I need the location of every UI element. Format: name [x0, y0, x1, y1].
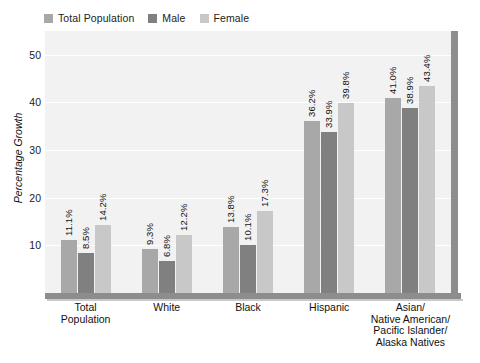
bar[interactable]: 39.8%	[338, 103, 354, 293]
bar[interactable]: 14.2%	[95, 225, 111, 293]
x-axis-category-line: Population	[33, 314, 138, 326]
legend-item-female: Female	[200, 12, 250, 24]
bar[interactable]: 33.9%	[321, 132, 337, 293]
bar[interactable]: 36.2%	[304, 121, 320, 293]
bar[interactable]: 12.2%	[176, 235, 192, 293]
legend-label-female: Female	[214, 12, 250, 24]
bar-value-label: 12.2%	[177, 203, 188, 230]
bar-value-label: 38.9%	[404, 76, 415, 103]
bar-group: 9.3%6.8%12.2%	[142, 31, 192, 293]
bar-value-label: 6.8%	[160, 235, 171, 257]
bar[interactable]: 8.5%	[78, 253, 94, 293]
chart-plot-frame: 11.1%8.5%14.2%9.3%6.8%12.2%13.8%10.1%17.…	[45, 31, 458, 293]
chart-right-edge-3d	[451, 31, 458, 293]
bar[interactable]: 10.1%	[240, 245, 256, 293]
bar[interactable]: 11.1%	[61, 240, 77, 293]
bar-value-label: 14.2%	[96, 194, 107, 221]
bar-value-label: 10.1%	[242, 213, 253, 240]
bar-value-label: 39.8%	[340, 72, 351, 99]
bar[interactable]: 17.3%	[257, 211, 273, 293]
bar-value-label: 8.5%	[79, 226, 90, 248]
bar-value-label: 36.2%	[306, 89, 317, 116]
bar-group: 13.8%10.1%17.3%	[223, 31, 273, 293]
legend-swatch-female	[200, 14, 209, 23]
legend-item-male: Male	[148, 12, 185, 24]
bar-value-label: 17.3%	[259, 179, 270, 206]
x-axis-category-line: Pacific Islander/	[358, 325, 463, 337]
bar-group: 36.2%33.9%39.8%	[304, 31, 354, 293]
legend-swatch-male	[148, 14, 157, 23]
bar[interactable]: 9.3%	[142, 249, 158, 293]
bar[interactable]: 6.8%	[159, 261, 175, 293]
bar[interactable]: 43.4%	[419, 86, 435, 293]
x-axis-category-line: Alaska Natives	[358, 337, 463, 349]
x-axis-labels: TotalPopulationWhiteBlackHispanicAsian/N…	[45, 302, 451, 362]
legend-label-male: Male	[162, 12, 185, 24]
y-tick-label: 10	[11, 239, 41, 251]
chart-legend: Total Population Male Female	[44, 12, 263, 24]
bar[interactable]: 38.9%	[402, 108, 418, 293]
bar-value-label: 33.9%	[323, 100, 334, 127]
x-axis-category-line: Asian/	[358, 302, 463, 314]
bar-value-label: 13.8%	[225, 196, 236, 223]
bar-value-label: 41.0%	[387, 66, 398, 93]
y-axis-title: Percentage Growth	[12, 98, 24, 218]
legend-label-total-population: Total Population	[58, 12, 134, 24]
bar-group: 41.0%38.9%43.4%	[385, 31, 435, 293]
chart-plot-area: 11.1%8.5%14.2%9.3%6.8%12.2%13.8%10.1%17.…	[45, 31, 451, 293]
bar[interactable]: 13.8%	[223, 227, 239, 293]
bar-value-label: 11.1%	[62, 209, 73, 236]
x-axis-category-label: Asian/Native American/Pacific Islander/A…	[358, 302, 463, 348]
bar[interactable]: 41.0%	[385, 98, 401, 293]
legend-item-total-population: Total Population	[44, 12, 134, 24]
bar-value-label: 9.3%	[143, 223, 154, 245]
legend-swatch-total-population	[44, 14, 53, 23]
bar-group: 11.1%8.5%14.2%	[61, 31, 111, 293]
y-tick-label: 50	[11, 49, 41, 61]
bar-value-label: 43.4%	[421, 55, 432, 82]
